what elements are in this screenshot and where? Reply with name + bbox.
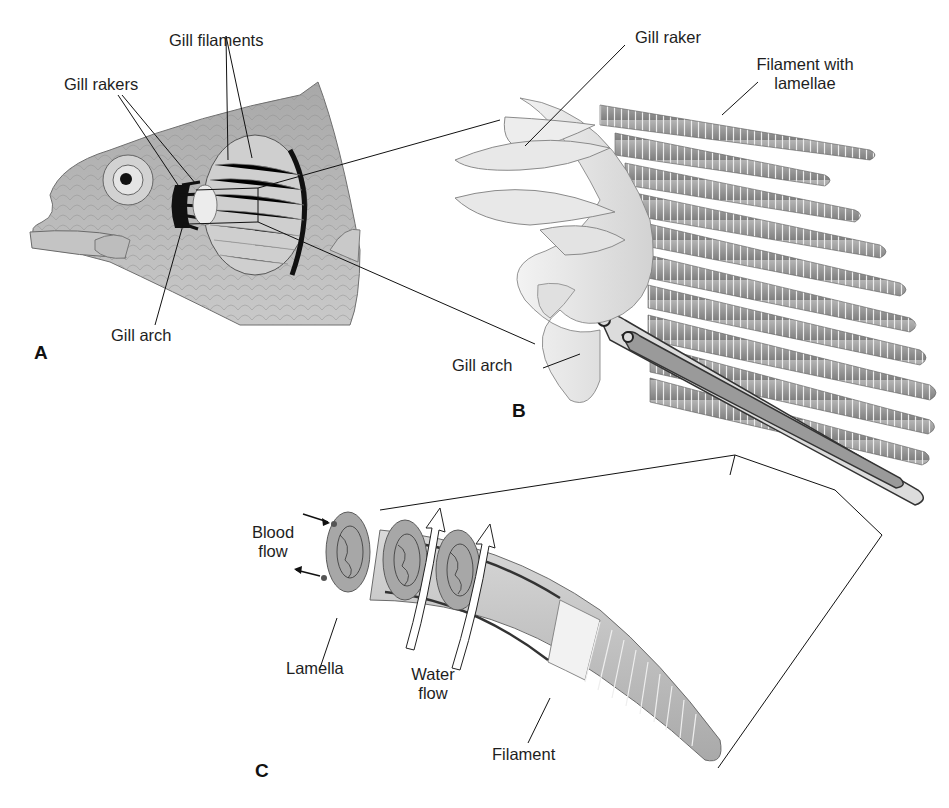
label-gill-raker: Gill raker: [635, 28, 701, 47]
label-blood-line1: Blood: [243, 523, 303, 542]
label-gill-rakers: Gill rakers: [64, 75, 138, 94]
label-gill-arch-a: Gill arch: [111, 326, 172, 345]
label-water-line1: Water: [398, 665, 468, 684]
filament-illustration: [294, 508, 721, 761]
label-filament-with-lamellae: Filament with lamellae: [750, 55, 860, 93]
panel-letter-c: C: [255, 760, 269, 782]
label-blood-line2: flow: [243, 542, 303, 561]
gill-diagram-artwork: [0, 0, 949, 808]
label-lamella: Lamella: [286, 659, 344, 678]
label-water-flow: Water flow: [398, 665, 468, 703]
label-filament: Filament: [492, 745, 555, 764]
label-blood-flow: Blood flow: [243, 523, 303, 561]
gill-arch-illustration: [455, 98, 936, 505]
fish-head-illustration: [30, 82, 360, 325]
label-gill-filaments: Gill filaments: [169, 31, 263, 50]
panel-letter-b: B: [512, 400, 526, 422]
label-water-line2: flow: [398, 684, 468, 703]
label-filament-with-line1: Filament with: [750, 55, 860, 74]
label-filament-with-line2: lamellae: [750, 74, 860, 93]
panel-letter-a: A: [34, 342, 48, 364]
label-gill-arch-b: Gill arch: [452, 356, 513, 375]
